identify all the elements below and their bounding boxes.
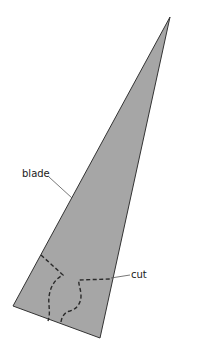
blade-leader-line (49, 177, 72, 198)
cut-label: cut (131, 270, 147, 280)
blade-label: blade (22, 169, 50, 179)
